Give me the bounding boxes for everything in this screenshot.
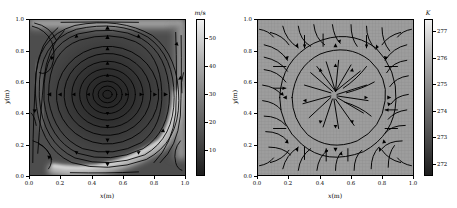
xtick-5 <box>185 176 186 179</box>
xticklabel-1: 0.2 <box>56 180 65 186</box>
xtick-0 <box>29 176 30 179</box>
xticklabel-3: 0.6 <box>347 180 356 186</box>
colorbar-ticklabel-3: 275 <box>437 81 447 87</box>
axes-inner-velocity <box>30 20 185 175</box>
colorbar-tick-5 <box>433 31 436 32</box>
colorbar-ticklabel-2: 274 <box>437 108 447 114</box>
ytick-4 <box>254 51 257 52</box>
colorbar-ticklabel-3: 40 <box>209 63 216 69</box>
xtick-2 <box>92 176 93 179</box>
yticklabel-2: 0.4 <box>10 110 24 116</box>
colorbar-tick-2 <box>433 111 436 112</box>
ytick-5 <box>254 19 257 20</box>
xticklabel-4: 0.8 <box>378 180 387 186</box>
xticklabel-2: 0.4 <box>88 180 97 186</box>
colorbar-ticklabel-1: 273 <box>437 134 447 140</box>
colorbar-tick-3 <box>433 84 436 85</box>
colorbar-tick-3 <box>205 66 208 67</box>
xticklabel-1: 0.2 <box>284 180 293 186</box>
yticklabel-1: 0.2 <box>238 142 252 148</box>
colorbar-tick-1 <box>205 122 208 123</box>
panel-velocity: 0.0 0.2 0.4 0.6 0.8 1.0 0.0 0.2 0.4 0.6 … <box>0 0 228 208</box>
yaxis-title-symbol: y <box>231 101 238 105</box>
colorbar-tick-4 <box>205 38 208 39</box>
colorbar-gradient-temperature <box>425 20 432 175</box>
xaxis-title-unit: (m) <box>331 192 342 199</box>
yticklabel-5: 1.0 <box>238 16 252 22</box>
ytick-0 <box>26 176 29 177</box>
xticklabel-0: 0.0 <box>253 180 262 186</box>
axes-temperature <box>257 19 414 176</box>
xticklabel-5: 1.0 <box>181 180 190 186</box>
colorbar-ticklabel-2: 30 <box>209 91 216 97</box>
xticklabel-2: 0.4 <box>316 180 325 186</box>
colorbar-tick-0 <box>205 150 208 151</box>
colorbar-title-symbol: K <box>426 9 431 16</box>
xaxis-title: x(m) <box>328 192 342 199</box>
yaxis-title: y(m) <box>231 90 238 104</box>
xaxis-title-unit: (m) <box>103 192 114 199</box>
colorbar-title-unit: /s <box>200 9 205 16</box>
colorbar-ticklabel-4: 50 <box>209 35 216 41</box>
yticklabel-2: 0.4 <box>238 110 252 116</box>
ytick-0 <box>254 176 257 177</box>
yticklabel-4: 0.8 <box>238 48 252 54</box>
colorbar-temperature <box>424 19 433 176</box>
ytick-3 <box>254 82 257 83</box>
colorbar-gradient-velocity <box>197 20 204 175</box>
xtick-1 <box>288 176 289 179</box>
colorbar-tick-1 <box>433 137 436 138</box>
colorbar-ticklabel-4: 276 <box>437 55 447 61</box>
yticklabel-3: 0.6 <box>10 79 24 85</box>
panel-temperature: 0.0 0.2 0.4 0.6 0.8 1.0 0.0 0.2 0.4 0.6 … <box>228 0 456 208</box>
ytick-1 <box>26 145 29 146</box>
colorbar-tick-4 <box>433 58 436 59</box>
yticklabel-0: 0.0 <box>238 173 252 179</box>
xticklabel-4: 0.8 <box>150 180 159 186</box>
colorbar-ticklabel-0: 10 <box>209 147 216 153</box>
xtick-4 <box>154 176 155 179</box>
yaxis-title-unit: (m) <box>3 90 10 101</box>
xticklabel-5: 1.0 <box>409 180 418 186</box>
ytick-4 <box>26 51 29 52</box>
yaxis-title-symbol: y <box>3 101 10 105</box>
ytick-5 <box>26 19 29 20</box>
colorbar-ticklabel-0: 272 <box>437 161 447 167</box>
yaxis-title: y(m) <box>3 90 10 104</box>
ytick-2 <box>254 113 257 114</box>
yticklabel-4: 0.8 <box>10 48 24 54</box>
yticklabel-1: 0.2 <box>10 142 24 148</box>
yaxis-title-unit: (m) <box>231 90 238 101</box>
xtick-3 <box>351 176 352 179</box>
xtick-4 <box>382 176 383 179</box>
axes-velocity <box>29 19 186 176</box>
xtick-2 <box>320 176 321 179</box>
ytick-3 <box>26 82 29 83</box>
velocity-streamlines <box>30 20 185 175</box>
colorbar-ticklabel-1: 20 <box>209 119 216 125</box>
xtick-0 <box>257 176 258 179</box>
colorbar-title-temperature: K <box>426 9 431 16</box>
colorbar-title-velocity: m/s <box>194 9 205 16</box>
temperature-streamlines <box>258 20 413 175</box>
axes-inner-temperature <box>258 20 413 175</box>
yticklabel-0: 0.0 <box>10 173 24 179</box>
figure-root: 0.0 0.2 0.4 0.6 0.8 1.0 0.0 0.2 0.4 0.6 … <box>0 0 457 208</box>
colorbar-ticklabel-5: 277 <box>437 28 447 34</box>
yticklabel-3: 0.6 <box>238 79 252 85</box>
ytick-1 <box>254 145 257 146</box>
colorbar-tick-0 <box>433 164 436 165</box>
ytick-2 <box>26 113 29 114</box>
xtick-3 <box>123 176 124 179</box>
colorbar-tick-2 <box>205 94 208 95</box>
xtick-5 <box>413 176 414 179</box>
xticklabel-3: 0.6 <box>119 180 128 186</box>
xticklabel-0: 0.0 <box>25 180 34 186</box>
colorbar-velocity <box>196 19 205 176</box>
xaxis-title: x(m) <box>100 192 114 199</box>
xtick-1 <box>60 176 61 179</box>
yticklabel-5: 1.0 <box>10 16 24 22</box>
